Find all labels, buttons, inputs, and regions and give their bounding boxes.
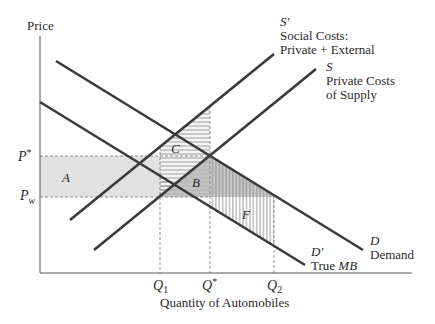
svg-text:S: S — [326, 59, 333, 74]
q-star-label: Q* — [202, 276, 217, 293]
svg-text:D′: D′ — [310, 244, 323, 259]
q2-label: Q2 — [267, 278, 282, 295]
area-c-label: C — [171, 141, 180, 156]
svg-text:D: D — [369, 233, 380, 248]
svg-text:Social Costs:: Social Costs: — [280, 28, 348, 43]
svg-text:of Supply: of Supply — [326, 87, 377, 102]
area-a-label: A — [61, 170, 70, 185]
area-b-label: B — [192, 175, 200, 190]
q1-label: Q1 — [153, 278, 168, 295]
area-f-hatch — [210, 156, 274, 246]
s-prime-label: S′ Social Costs: Private + External — [280, 14, 375, 57]
svg-text:Private Costs: Private Costs — [326, 73, 395, 88]
p-star-label: P* — [17, 147, 32, 164]
s-label: S Private Costs of Supply — [326, 59, 395, 102]
svg-text:S′: S′ — [280, 14, 290, 29]
p-w-label: Pw — [19, 188, 36, 206]
economics-externality-diagram: Price Quantity of Automobiles P* Pw Q1 Q… — [0, 0, 435, 324]
d-label: D Demand — [369, 233, 415, 262]
area-f-label: F — [241, 207, 251, 222]
d-prime-label: D′ True MB — [310, 244, 357, 273]
x-axis-label: Quantity of Automobiles — [160, 295, 289, 310]
svg-text:Demand: Demand — [370, 247, 415, 262]
svg-text:True MB: True MB — [311, 258, 357, 273]
svg-text:Private + External: Private + External — [280, 42, 375, 57]
y-axis-label: Price — [27, 18, 54, 33]
